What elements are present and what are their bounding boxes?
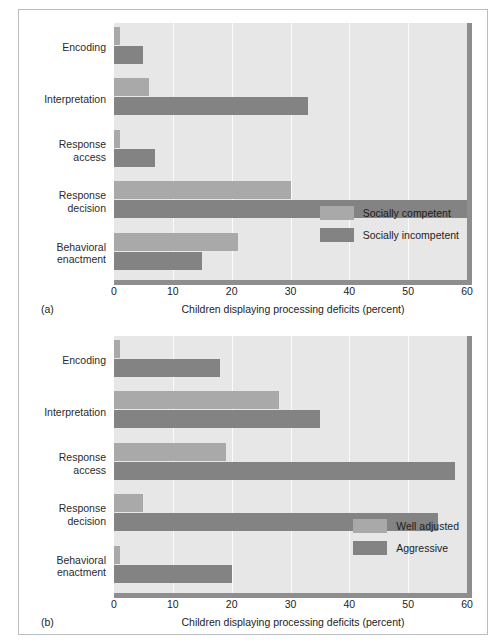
bar-group	[114, 74, 467, 125]
legend-label: Socially competent	[363, 207, 451, 219]
x-tick-label: 60	[461, 285, 473, 297]
bar-group	[114, 387, 467, 438]
bar-aggressive	[114, 410, 320, 428]
gridline	[467, 336, 468, 593]
bar-socially-incompetent	[114, 46, 143, 64]
bar-aggressive	[114, 565, 232, 583]
x-tick-label: 10	[167, 598, 179, 610]
legend-b: Well adjustedAggressive	[353, 517, 459, 561]
x-axis-title-a: Children displaying processing deficits …	[114, 303, 472, 315]
bar-aggressive	[114, 359, 220, 377]
category-label: Responsedecision	[19, 502, 106, 527]
legend-item: Socially incompetent	[320, 226, 459, 243]
bar-well-adjusted	[114, 443, 226, 461]
category-label: Encoding	[19, 354, 106, 367]
bar-socially-incompetent	[114, 97, 308, 115]
category-label: Interpretation	[19, 406, 106, 419]
x-tick-labels-a: 0102030405060	[19, 285, 489, 299]
bar-socially-competent	[114, 130, 120, 148]
figure-page: Socially competentSocially incompetent 0…	[0, 0, 499, 642]
x-tick-label: 0	[111, 285, 117, 297]
category-label: Responsedecision	[19, 189, 106, 214]
chart-panel-a: Socially competentSocially incompetent 0…	[19, 10, 489, 323]
bar-well-adjusted	[114, 546, 120, 564]
category-label: Responseaccess	[19, 451, 106, 476]
bar-group	[114, 439, 467, 490]
x-tick-label: 40	[343, 598, 355, 610]
chart-panel-b: Well adjustedAggressive 0102030405060 Ch…	[19, 323, 489, 636]
category-label: Behavioralenactment	[19, 554, 106, 579]
bar-socially-incompetent	[114, 252, 202, 270]
bar-well-adjusted	[114, 340, 120, 358]
bar-socially-competent	[114, 27, 120, 45]
category-label: Interpretation	[19, 93, 106, 106]
plot-area-a: Socially competentSocially incompetent	[114, 23, 467, 280]
legend-swatch	[353, 541, 387, 555]
bar-socially-competent	[114, 233, 238, 251]
legend-label: Well adjusted	[396, 520, 459, 532]
bar-socially-incompetent	[114, 149, 155, 167]
bar-socially-competent	[114, 78, 149, 96]
bar-group	[114, 23, 467, 74]
x-tick-label: 50	[402, 285, 414, 297]
legend-item: Aggressive	[353, 539, 459, 556]
gridline	[467, 23, 468, 280]
x-tick-label: 50	[402, 598, 414, 610]
bar-group	[114, 336, 467, 387]
legend-swatch	[320, 206, 354, 220]
panel-tag-b: (b)	[41, 616, 54, 628]
x-axis-title-b: Children displaying processing deficits …	[114, 616, 472, 628]
legend-swatch	[320, 228, 354, 242]
bar-socially-competent	[114, 181, 291, 199]
panel-tag-a: (a)	[41, 303, 54, 315]
x-tick-label: 10	[167, 285, 179, 297]
legend-a: Socially competentSocially incompetent	[320, 204, 459, 248]
legend-label: Aggressive	[396, 542, 448, 554]
bar-well-adjusted	[114, 494, 143, 512]
legend-item: Well adjusted	[353, 517, 459, 534]
category-label: Responseaccess	[19, 138, 106, 163]
legend-swatch	[353, 519, 387, 533]
bar-group	[114, 126, 467, 177]
legend-item: Socially competent	[320, 204, 459, 221]
x-tick-labels-b: 0102030405060	[19, 598, 489, 612]
x-tick-label: 20	[226, 598, 238, 610]
x-tick-label: 30	[285, 598, 297, 610]
legend-label: Socially incompetent	[363, 229, 459, 241]
category-label: Behavioralenactment	[19, 241, 106, 266]
x-tick-label: 60	[461, 598, 473, 610]
x-tick-label: 20	[226, 285, 238, 297]
x-tick-label: 0	[111, 598, 117, 610]
x-tick-label: 30	[285, 285, 297, 297]
figure-frame: Socially competentSocially incompetent 0…	[18, 9, 488, 635]
bar-well-adjusted	[114, 391, 279, 409]
x-tick-label: 40	[343, 285, 355, 297]
plot-area-b: Well adjustedAggressive	[114, 336, 467, 593]
bar-aggressive	[114, 462, 455, 480]
category-label: Encoding	[19, 41, 106, 54]
